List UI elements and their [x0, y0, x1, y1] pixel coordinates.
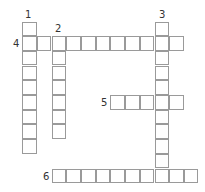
grid-cell[interactable]	[125, 169, 140, 184]
grid-cell[interactable]	[52, 124, 67, 139]
crossword-grid: 123456	[0, 0, 205, 192]
grid-cell[interactable]	[140, 169, 155, 184]
grid-cell[interactable]	[110, 36, 125, 51]
grid-cell[interactable]	[155, 95, 170, 110]
grid-cell[interactable]	[184, 169, 199, 184]
grid-cell[interactable]	[155, 154, 170, 169]
grid-cell[interactable]	[155, 169, 170, 184]
grid-cell[interactable]	[52, 169, 67, 184]
grid-cell[interactable]	[125, 95, 140, 110]
grid-cell[interactable]	[155, 124, 170, 139]
grid-cell[interactable]	[155, 51, 170, 66]
grid-cell[interactable]	[22, 51, 37, 66]
grid-cell[interactable]	[169, 36, 184, 51]
grid-cell[interactable]	[52, 51, 67, 66]
grid-cell[interactable]	[155, 80, 170, 95]
clue-number-4: 4	[13, 39, 19, 49]
grid-cell[interactable]	[96, 36, 111, 51]
grid-cell[interactable]	[81, 36, 96, 51]
grid-cell[interactable]	[155, 66, 170, 81]
clue-number-3: 3	[159, 10, 165, 20]
grid-cell[interactable]	[169, 95, 184, 110]
grid-cell[interactable]	[110, 169, 125, 184]
grid-cell[interactable]	[22, 66, 37, 81]
grid-cell[interactable]	[52, 80, 67, 95]
grid-cell[interactable]	[125, 36, 140, 51]
grid-cell[interactable]	[22, 80, 37, 95]
grid-cell[interactable]	[96, 169, 111, 184]
clue-number-5: 5	[101, 98, 107, 108]
grid-cell[interactable]	[66, 36, 81, 51]
grid-cell[interactable]	[155, 22, 170, 37]
grid-cell[interactable]	[22, 95, 37, 110]
grid-cell[interactable]	[140, 36, 155, 51]
clue-number-1: 1	[25, 10, 31, 20]
grid-cell[interactable]	[37, 36, 52, 51]
grid-cell[interactable]	[52, 36, 67, 51]
grid-cell[interactable]	[66, 169, 81, 184]
grid-cell[interactable]	[52, 95, 67, 110]
grid-cell[interactable]	[22, 22, 37, 37]
grid-cell[interactable]	[22, 124, 37, 139]
grid-cell[interactable]	[169, 169, 184, 184]
grid-cell[interactable]	[140, 95, 155, 110]
grid-cell[interactable]	[155, 139, 170, 154]
grid-cell[interactable]	[22, 36, 37, 51]
clue-number-2: 2	[55, 24, 61, 34]
clue-number-6: 6	[43, 172, 49, 182]
grid-cell[interactable]	[155, 110, 170, 125]
grid-cell[interactable]	[52, 110, 67, 125]
grid-cell[interactable]	[22, 139, 37, 154]
grid-cell[interactable]	[81, 169, 96, 184]
grid-cell[interactable]	[22, 110, 37, 125]
grid-cell[interactable]	[155, 36, 170, 51]
grid-cell[interactable]	[52, 66, 67, 81]
grid-cell[interactable]	[110, 95, 125, 110]
